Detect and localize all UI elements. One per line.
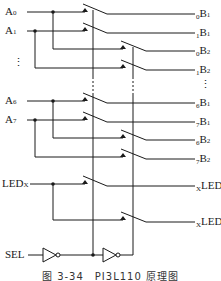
ellipsis-right: ⋮ <box>200 79 211 90</box>
circuit-wiring <box>0 0 221 281</box>
output-label-7b2: 7B2 <box>196 153 210 166</box>
output-label-1b2: 1B2 <box>196 64 210 77</box>
output-label-6b2: 6B2 <box>196 134 210 147</box>
input-label-a0: A0 <box>5 6 16 19</box>
output-label-6b1: 6B1 <box>196 97 210 110</box>
input-label-ledx: LEDX <box>2 178 28 191</box>
input-label-a6: A6 <box>5 95 16 108</box>
control-label-sel: SEL <box>5 249 25 260</box>
output-label-0b1: 0B1 <box>196 8 210 21</box>
ellipsis-left: ⋮ <box>13 57 24 68</box>
figure-caption: 图 3-34 PI3L110 原理图 <box>0 268 221 281</box>
output-label-xled1: XLED1 <box>196 180 221 193</box>
output-label-7b1: 7B1 <box>196 116 210 129</box>
output-label-1b1: 1B1 <box>196 27 210 40</box>
input-label-a7: A7 <box>5 114 16 127</box>
input-label-a1: A1 <box>5 25 16 38</box>
output-label-xled2: XLED2 <box>196 216 221 229</box>
output-label-0b2: 0B2 <box>196 45 210 58</box>
